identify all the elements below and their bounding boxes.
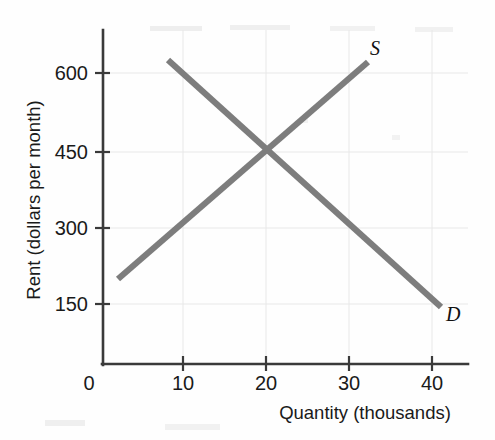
- x-tick-label-30: 30: [338, 372, 360, 394]
- x-tick-label-40: 40: [421, 372, 443, 394]
- y-tick-label-600: 600: [55, 62, 88, 84]
- y-tick-label-150: 150: [55, 293, 88, 315]
- supply-demand-chart: 600 450 300 150 0 10 20 30 40 Rent (doll…: [0, 0, 495, 440]
- y-tick-label-300: 300: [55, 217, 88, 239]
- demand-curve-label: D: [445, 303, 461, 325]
- x-axis-title: Quantity (thousands): [279, 402, 451, 423]
- supply-curve-label: S: [370, 37, 380, 59]
- x-tick-label-0: 0: [83, 372, 94, 394]
- x-tick-label-10: 10: [172, 372, 194, 394]
- chart-canvas: 600 450 300 150 0 10 20 30 40 Rent (doll…: [0, 0, 495, 440]
- y-axis-title: Rent (dollars per month): [23, 100, 44, 299]
- x-tick-label-20: 20: [255, 372, 277, 394]
- y-tick-label-450: 450: [55, 141, 88, 163]
